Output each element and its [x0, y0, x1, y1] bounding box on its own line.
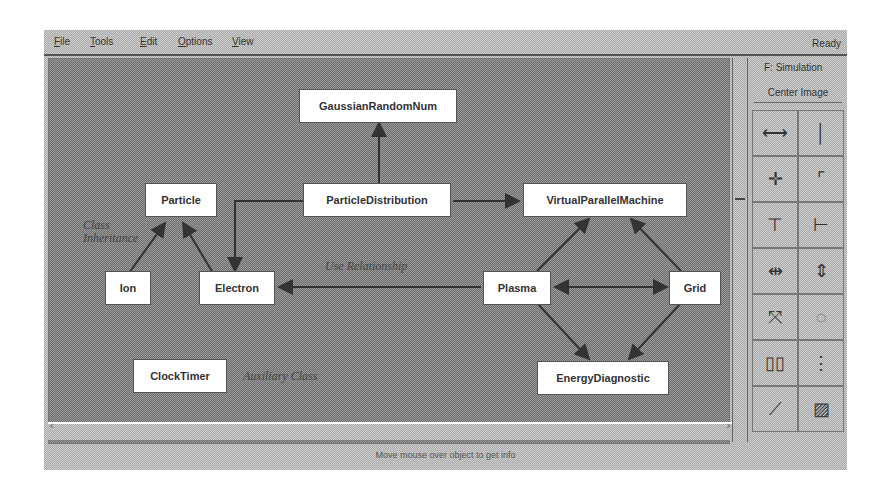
vertical-scroll-thumb[interactable]	[735, 198, 745, 230]
circle-layout-icon[interactable]: ◌	[798, 294, 844, 340]
distribute-horizontal-icon[interactable]: ⇹	[752, 248, 798, 294]
menu-edit[interactable]: Edit	[140, 36, 157, 47]
menu-options[interactable]: Options	[178, 36, 212, 47]
class-node-energydiagnostic[interactable]: EnergyDiagnostic	[537, 361, 669, 395]
class-node-ion[interactable]: Ion	[105, 271, 151, 305]
class-node-particledistribution[interactable]: ParticleDistribution	[303, 183, 451, 217]
diagram-canvas[interactable]: GaussianRandomNum Particle ParticleDistr…	[48, 58, 730, 444]
vertical-line-icon[interactable]: │	[798, 110, 844, 156]
class-node-clocktimer[interactable]: ClockTimer	[133, 359, 227, 393]
align-left-icon[interactable]: ⊢	[798, 202, 844, 248]
crosshair-icon[interactable]: ✛	[752, 156, 798, 202]
stack-icon[interactable]: ⋮	[798, 340, 844, 386]
scroll-left-arrow-icon[interactable]: ‹	[50, 420, 53, 431]
class-node-gaussianrandomnum[interactable]: GaussianRandomNum	[299, 89, 457, 123]
side-by-side-icon[interactable]: ▯▯	[752, 340, 798, 386]
menu-bar: File Tools Edit Options View Ready	[44, 30, 847, 56]
corner-box-icon[interactable]: ⌜	[798, 156, 844, 202]
horizontal-scrollbar[interactable]: ‹ ›	[48, 422, 732, 440]
vertical-scrollbar[interactable]	[732, 58, 748, 442]
scroll-right-arrow-icon[interactable]: ›	[727, 420, 730, 431]
align-top-icon[interactable]: ⊤	[752, 202, 798, 248]
simulation-label: F: Simulation	[764, 62, 822, 73]
menu-file[interactable]: File	[54, 36, 70, 47]
menu-view[interactable]: View	[232, 36, 254, 47]
tool-panel: F: Simulation Center Image ⟷ │ ✛ ⌜ ⊤ ⊢ ⇹…	[750, 58, 844, 442]
class-inheritance-note: Class Inheritance	[83, 219, 143, 245]
link-icon[interactable]: ⟋	[752, 386, 798, 432]
horizontal-line-icon[interactable]: ⟷	[752, 110, 798, 156]
fill-icon[interactable]: ▨	[798, 386, 844, 432]
layout-tool-grid: ⟷ │ ✛ ⌜ ⊤ ⊢ ⇹ ⇕ ⤧ ◌ ▯▯ ⋮ ⟋ ▨	[752, 110, 844, 432]
center-image-button[interactable]: Center Image	[754, 84, 842, 103]
use-relationship-note: Use Relationship	[325, 259, 407, 274]
ready-status: Ready	[812, 38, 841, 49]
auxiliary-class-note: Auxiliary Class	[243, 369, 317, 384]
app-window: File Tools Edit Options View Ready	[44, 30, 847, 470]
class-node-plasma[interactable]: Plasma	[483, 271, 551, 305]
class-node-virtualparallelmachine[interactable]: VirtualParallelMachine	[523, 183, 687, 217]
status-bar: Move mouse over object to get info	[44, 444, 847, 466]
distribute-vertical-icon[interactable]: ⇕	[798, 248, 844, 294]
menu-tools[interactable]: Tools	[90, 36, 113, 47]
class-node-electron[interactable]: Electron	[199, 271, 275, 305]
class-node-particle[interactable]: Particle	[145, 183, 217, 217]
class-node-grid[interactable]: Grid	[669, 271, 721, 305]
scatter-icon[interactable]: ⤧	[752, 294, 798, 340]
